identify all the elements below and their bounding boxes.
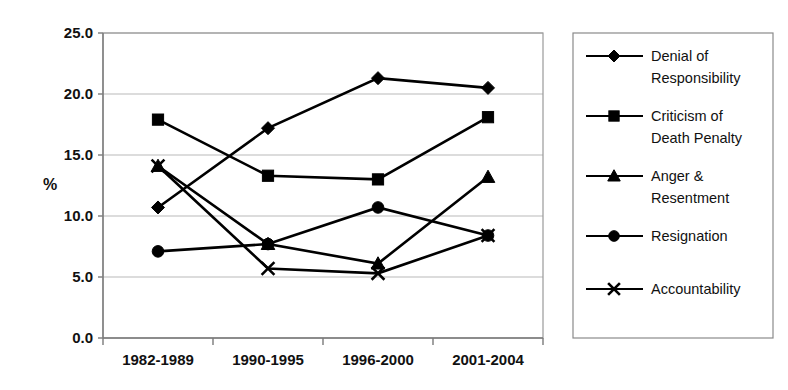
x-axis-ticks: 1982-19891990-19951996-20002001-2004 (103, 338, 543, 368)
y-tick-label: 10.0 (64, 207, 93, 224)
y-gridlines: 0.05.010.015.020.025.0 (64, 24, 543, 346)
series-line (158, 117, 488, 179)
legend-label: Anger & (651, 168, 704, 184)
legend-entry-5[interactable]: Accountability (586, 281, 741, 297)
y-tick-label: 5.0 (72, 268, 93, 285)
marker-square (482, 112, 493, 123)
y-tick-label: 15.0 (64, 146, 93, 163)
legend-label: Denial of (651, 48, 709, 64)
marker-square (609, 111, 619, 121)
marker-triangle (481, 170, 495, 182)
series-line (158, 166, 488, 273)
legend: Denial ofResponsibilityCriticism ofDeath… (573, 33, 773, 338)
chart-figure: 0.05.010.015.020.025.01982-19891990-1995… (0, 0, 788, 390)
legend-label: Resignation (651, 228, 728, 244)
legend-label: Criticism of (651, 108, 724, 124)
legend-label-line2: Death Penalty (651, 130, 743, 146)
marker-circle (152, 246, 164, 258)
x-tick-label: 2001-2004 (452, 351, 524, 368)
y-tick-label: 25.0 (64, 24, 93, 41)
x-tick-label: 1996-2000 (342, 351, 414, 368)
marker-square (372, 174, 383, 185)
x-tick-label: 1990-1995 (232, 351, 304, 368)
y-axis-title: % (43, 176, 57, 193)
y-tick-label: 20.0 (64, 85, 93, 102)
legend-label-line2: Responsibility (651, 70, 741, 86)
marker-circle (372, 202, 384, 214)
marker-square (262, 170, 273, 181)
series-group (151, 72, 495, 280)
legend-label-line2: Resentment (651, 190, 729, 206)
marker-circle (262, 238, 274, 250)
marker-circle (609, 231, 620, 242)
y-tick-label: 0.0 (72, 329, 93, 346)
marker-square (152, 114, 163, 125)
x-tick-label: 1982-1989 (122, 351, 194, 368)
legend-label: Accountability (651, 281, 741, 297)
series-line (158, 78, 488, 207)
marker-diamond (482, 81, 495, 94)
series-line (158, 207, 488, 251)
marker-diamond (372, 72, 385, 85)
line-chart: 0.05.010.015.020.025.01982-19891990-1995… (0, 0, 788, 390)
